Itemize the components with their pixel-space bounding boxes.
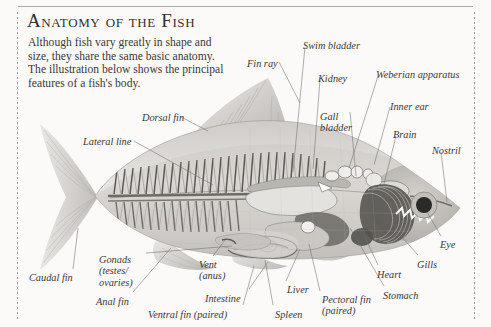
label-intestine: Intestine — [205, 293, 240, 304]
label-liver: Liver — [287, 284, 309, 295]
label-weberian-apparatus: Weberian apparatus — [376, 69, 459, 80]
label-caudal-fin: Caudal fin — [29, 272, 73, 283]
label-kidney: Kidney — [318, 73, 347, 84]
label-fin-ray: Fin ray — [247, 58, 278, 69]
leader-caudal-fin — [73, 228, 78, 269]
eye-shape — [411, 192, 437, 218]
leader-anal-fin — [133, 248, 171, 292]
label-lateral-line: Lateral line — [83, 136, 131, 147]
label-gall-bladder: Gall bladder — [320, 111, 352, 134]
label-nostril: Nostril — [432, 145, 461, 156]
label-swim-bladder: Swim bladder — [303, 40, 360, 51]
label-spleen: Spleen — [275, 309, 302, 320]
label-pectoral-fin: Pectoral fin (paired) — [322, 294, 371, 317]
label-stomach: Stomach — [383, 290, 418, 301]
label-gills: Gills — [417, 259, 437, 270]
label-inner-ear: Inner ear — [390, 101, 429, 112]
label-vent-anus: Vent (anus) — [199, 259, 225, 282]
label-eye: Eye — [440, 239, 455, 250]
label-gonads: Gonads (testes/ ovaries) — [99, 254, 133, 288]
label-dorsal-fin: Dorsal fin — [142, 112, 184, 123]
label-anal-fin: Anal fin — [96, 296, 129, 307]
label-brain: Brain — [393, 129, 416, 140]
label-ventral-fin: Ventral fin (paired) — [148, 309, 227, 320]
label-heart: Heart — [377, 269, 401, 280]
leader-fin-ray — [279, 62, 300, 103]
illustration-page: Anatomy of the Fish Although fish vary g… — [0, 0, 491, 327]
fish-anatomy-illustration — [0, 0, 491, 327]
leader-ventral-fin — [243, 266, 254, 305]
